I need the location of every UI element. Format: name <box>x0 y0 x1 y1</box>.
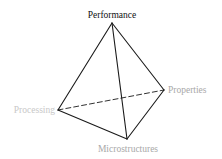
edge-performance-processing <box>58 23 112 110</box>
vertex-label-performance: Performance <box>88 10 137 20</box>
edges-group <box>58 23 164 139</box>
edge-performance-microstructures <box>112 23 127 139</box>
vertex-label-properties: Properties <box>168 85 207 95</box>
edge-microstructures-properties <box>127 90 164 139</box>
vertex-label-processing: Processing <box>14 105 55 115</box>
edge-processing-properties <box>58 90 164 110</box>
materials-tetrahedron-diagram: Performance Processing Properties Micros… <box>0 0 222 159</box>
vertex-label-microstructures: Microstructures <box>98 144 158 154</box>
edge-processing-microstructures <box>58 110 127 139</box>
